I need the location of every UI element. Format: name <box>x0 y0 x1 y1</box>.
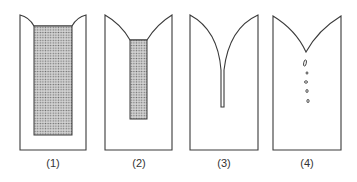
panel-label-3: (3) <box>204 157 244 169</box>
panel-4 <box>273 16 341 150</box>
diagram-canvas <box>0 0 357 182</box>
panel-1 <box>20 15 86 150</box>
panel-2 <box>105 15 172 150</box>
porous-core-2 <box>130 40 147 119</box>
panel-label-1: (1) <box>33 157 73 169</box>
panel-label-4: (4) <box>287 157 327 169</box>
ingot-outline-3 <box>190 15 258 150</box>
diagram: (1) (2) (3) (4) <box>0 0 357 182</box>
panel-3 <box>190 15 258 150</box>
panel-label-2: (2) <box>119 157 159 169</box>
porous-core-1 <box>34 26 72 135</box>
